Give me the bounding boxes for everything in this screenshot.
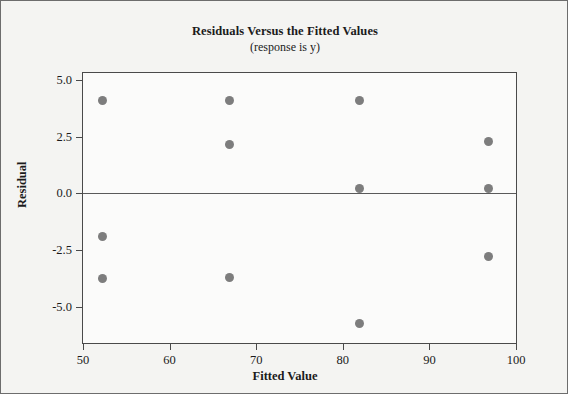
y-axis-tick-label: 5.0 xyxy=(56,72,72,87)
data-point xyxy=(355,96,364,105)
x-axis-tick xyxy=(83,343,84,350)
data-point xyxy=(98,232,107,241)
x-axis-tick-label: 80 xyxy=(337,353,350,368)
x-axis-tick xyxy=(516,343,517,350)
data-point xyxy=(98,96,107,105)
y-axis-tick-label: -2.5 xyxy=(52,242,72,257)
plot-area xyxy=(83,73,516,343)
x-axis-tick xyxy=(429,343,430,350)
y-axis-tick-label: 2.5 xyxy=(56,129,72,144)
zero-reference-line xyxy=(83,193,516,194)
x-axis-tick-label: 70 xyxy=(250,353,263,368)
y-axis-tick xyxy=(76,307,83,308)
data-point xyxy=(225,140,234,149)
data-point xyxy=(225,273,234,282)
x-axis-tick-label: 100 xyxy=(507,353,526,368)
data-point xyxy=(225,96,234,105)
page-title: Residuals Versus the Fitted Values xyxy=(1,23,568,39)
x-axis-tick xyxy=(256,343,257,350)
y-axis-tick xyxy=(76,137,83,138)
data-point xyxy=(484,184,493,193)
data-point xyxy=(484,137,493,146)
y-axis-tick-label: 0.0 xyxy=(56,186,72,201)
data-point xyxy=(98,274,107,283)
data-point xyxy=(355,319,364,328)
data-point xyxy=(484,252,493,261)
x-axis-tick-label: 50 xyxy=(77,353,90,368)
y-axis-label: Residual xyxy=(15,161,30,208)
x-axis-tick-label: 90 xyxy=(423,353,436,368)
y-axis-tick xyxy=(76,193,83,194)
x-axis-tick xyxy=(170,343,171,350)
y-axis-tick xyxy=(76,80,83,81)
data-point xyxy=(355,184,364,193)
x-axis-tick xyxy=(343,343,344,350)
chart-subtitle: (response is y) xyxy=(1,39,568,55)
x-axis-label: Fitted Value xyxy=(1,369,568,384)
y-axis-tick-label: -5.0 xyxy=(52,299,72,314)
chart-title-block: Residuals Versus the Fitted Values (resp… xyxy=(1,23,568,55)
y-axis-tick xyxy=(76,250,83,251)
chart-figure: Residuals Versus the Fitted Values (resp… xyxy=(0,0,568,394)
x-axis-tick-label: 60 xyxy=(163,353,176,368)
plot-frame: 5.02.50.0-2.5-5.05060708090100 xyxy=(82,72,517,344)
